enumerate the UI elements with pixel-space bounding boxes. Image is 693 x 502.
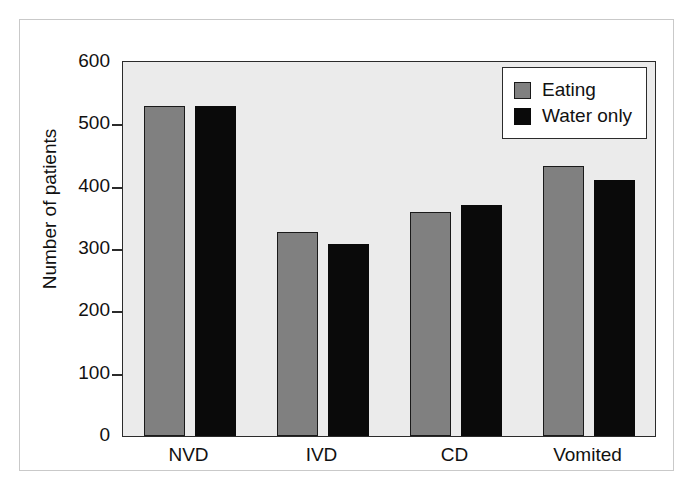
chart-legend: EatingWater only [502,67,647,139]
y-axis-tick-mark [112,124,123,126]
y-axis-tick-label: 400 [54,175,110,197]
bar-vomited-eating [543,166,584,436]
y-axis-tick-mark [112,187,123,189]
y-axis-tick-mark [112,249,123,251]
y-axis-tick-label: 200 [54,299,110,321]
bar-cd-water-only [461,205,502,436]
legend-item-label: Eating [542,79,596,101]
legend-swatch-icon [514,82,531,99]
legend-item-water-only: Water only [514,103,632,129]
y-axis-tick-label: 0 [54,424,110,446]
bar-ivd-eating [277,232,318,436]
y-axis-tick-label: 100 [54,362,110,384]
y-axis-tick-label: 300 [54,237,110,259]
legend-item-label: Water only [542,105,632,127]
bar-vomited-water-only [594,180,635,436]
y-axis-tick-label: 500 [54,112,110,134]
bar-ivd-water-only [328,244,369,436]
legend-swatch-icon [514,108,531,125]
bar-cd-eating [410,212,451,436]
bar-nvd-eating [144,106,185,436]
legend-item-eating: Eating [514,77,632,103]
x-axis-tick-label-vomited: Vomited [508,444,668,466]
y-axis-tick-mark [112,311,123,313]
y-axis-tick-label: 600 [54,50,110,72]
y-axis-tick-mark [112,374,123,376]
bar-nvd-water-only [195,106,236,436]
figure-root: Number of patients 0100200300400500600 N… [0,0,693,502]
